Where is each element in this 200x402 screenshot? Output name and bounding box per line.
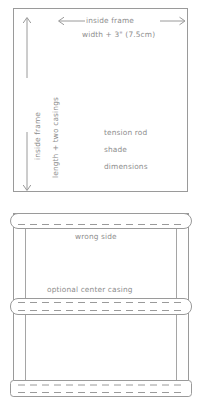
caption-line-2: shade: [104, 145, 182, 155]
width-arrow-label-line2: width + 3" (7.5cm): [82, 30, 155, 40]
length-plus-casings-label: length + two casings: [51, 97, 60, 178]
optional-center-casing-label: optional center casing: [47, 285, 133, 295]
length-measurement-arrow: [21, 16, 33, 192]
tension-rod-shade-diagram: inside frame width + 3" (7.5cm) inside f…: [0, 0, 200, 402]
caption-line-1: tension rod: [104, 128, 182, 138]
caption-block: tension rod shade dimensions: [104, 128, 182, 179]
length-arrow-label: inside frame: [33, 112, 42, 160]
width-arrow-label-line1: inside frame: [86, 16, 134, 26]
caption-line-3: dimensions: [104, 162, 182, 172]
wrong-side-label: wrong side: [75, 232, 117, 242]
